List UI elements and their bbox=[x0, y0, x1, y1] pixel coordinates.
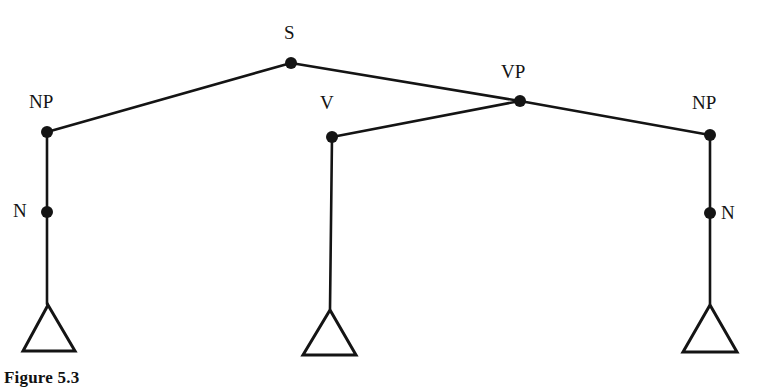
node-label-n2: N bbox=[721, 203, 735, 222]
tree-nodes bbox=[41, 57, 716, 219]
tree-node-dot-vp bbox=[514, 95, 526, 107]
tree-edges bbox=[47, 63, 710, 309]
tree-edge-v-vp bbox=[332, 101, 520, 137]
node-label-s: S bbox=[284, 23, 295, 42]
terminal-triangle-t1 bbox=[23, 305, 75, 351]
tree-node-dot-v bbox=[326, 131, 338, 143]
node-label-np1: NP bbox=[29, 92, 53, 111]
tree-node-dot-n1 bbox=[41, 206, 53, 218]
tree-node-dot-np2 bbox=[704, 129, 716, 141]
terminal-triangle-t3 bbox=[683, 305, 737, 352]
node-label-n1: N bbox=[13, 201, 27, 220]
node-label-np2: NP bbox=[692, 93, 716, 112]
tree-edge-np1-s bbox=[47, 63, 291, 132]
syntax-tree-diagram bbox=[0, 0, 759, 392]
tree-triangles bbox=[23, 305, 737, 355]
tree-node-dot-n2 bbox=[704, 207, 716, 219]
tree-node-dot-s bbox=[285, 57, 297, 69]
tree-node-dot-np1 bbox=[41, 126, 53, 138]
node-label-vp: VP bbox=[501, 62, 525, 81]
node-label-v: V bbox=[320, 93, 334, 112]
tree-edge-vp-np2 bbox=[520, 101, 710, 135]
figure-caption: Figure 5.3 bbox=[4, 368, 79, 388]
terminal-triangle-t2 bbox=[303, 310, 356, 355]
tree-edge-v-t2 bbox=[330, 137, 332, 309]
